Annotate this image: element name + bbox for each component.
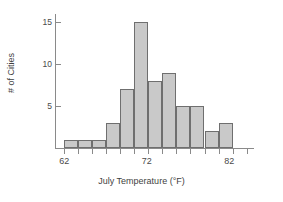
x-axis-tick (233, 149, 234, 154)
y-axis-tick-label: 5 (32, 102, 52, 111)
y-axis-tick (55, 64, 61, 65)
x-axis-line (55, 148, 254, 149)
x-axis-title: July Temperature (°F) (0, 176, 283, 187)
histogram-bar (92, 140, 106, 148)
histogram-bar (106, 123, 120, 148)
y-axis-tick-label: 15 (32, 18, 52, 27)
x-axis-tick-label: 82 (217, 156, 241, 166)
histogram-bar (134, 22, 148, 148)
histogram-bar (162, 73, 176, 148)
x-axis-tick-label: 72 (135, 156, 159, 166)
y-axis-line (55, 14, 56, 148)
x-axis-tick (92, 149, 93, 154)
histogram-chart: 51015 627282 # of Cities July Temperatur… (0, 0, 283, 202)
x-axis-tick (176, 149, 177, 154)
y-axis-tick (55, 22, 61, 23)
x-axis-tick (247, 149, 248, 154)
x-axis-tick-label: 62 (52, 156, 76, 166)
x-axis-tick (219, 149, 220, 154)
x-axis-tick (64, 149, 65, 154)
x-axis-tick (190, 149, 191, 154)
histogram-bar (176, 106, 190, 148)
x-axis-tick (120, 149, 121, 154)
histogram-bar (120, 89, 134, 148)
y-axis-tick-label: 10 (32, 60, 52, 69)
x-axis-tick (134, 149, 135, 154)
histogram-bar (148, 81, 162, 148)
y-axis-tick (55, 106, 61, 107)
x-axis-tick (106, 149, 107, 154)
histogram-bar (78, 140, 92, 148)
histogram-bar (219, 123, 233, 148)
x-axis-tick (162, 149, 163, 154)
y-axis-title: # of Cities (6, 41, 16, 105)
histogram-bar (64, 140, 78, 148)
x-axis-tick (205, 149, 206, 154)
x-axis-tick (78, 149, 79, 154)
histogram-bar (190, 106, 204, 148)
histogram-bar (205, 131, 219, 148)
x-axis-tick (148, 149, 149, 154)
